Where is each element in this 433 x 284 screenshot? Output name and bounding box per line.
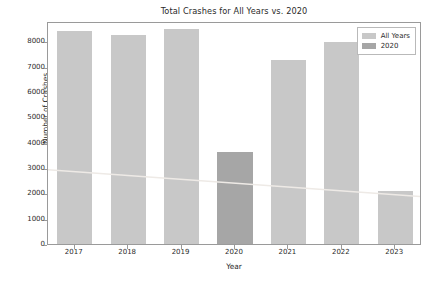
chart-legend: All Years2020	[357, 27, 416, 55]
x-tick-mark	[74, 245, 75, 249]
x-tick-mark	[127, 245, 128, 249]
y-tick-label: 0	[0, 240, 45, 250]
legend-item-0: All Years	[362, 31, 410, 41]
plot-area: All Years2020	[47, 22, 421, 245]
x-tick-label-2022: 2022	[311, 248, 371, 256]
x-tick-label-2019: 2019	[151, 248, 211, 256]
bar-2020	[217, 152, 252, 244]
bar-2023	[378, 191, 413, 244]
y-tick-label: 6000	[0, 88, 45, 98]
y-tick-label: 2000	[0, 189, 45, 199]
legend-label: All Years	[381, 32, 410, 40]
y-tick-label: 4000	[0, 139, 45, 149]
x-tick-label-2023: 2023	[364, 248, 424, 256]
bar-2022	[324, 42, 359, 244]
legend-swatch-icon	[362, 33, 376, 39]
y-tick-label: 1000	[0, 215, 45, 225]
x-tick-label-2021: 2021	[257, 248, 317, 256]
y-tick-label: 8000	[0, 37, 45, 47]
x-tick-label-2017: 2017	[44, 248, 104, 256]
y-tick-label: 7000	[0, 63, 45, 73]
y-tick-label: 3000	[0, 164, 45, 174]
bar-2021	[271, 60, 306, 244]
y-tick-mark	[44, 245, 48, 246]
x-axis-label: Year	[47, 262, 421, 271]
bar-2017	[57, 31, 92, 244]
chart-title: Total Crashes for All Years vs. 2020	[47, 6, 421, 16]
x-tick-label-2018: 2018	[97, 248, 157, 256]
legend-swatch-icon	[362, 43, 376, 49]
x-tick-mark	[394, 245, 395, 249]
legend-label: 2020	[381, 42, 399, 50]
y-tick-label: 5000	[0, 113, 45, 123]
x-tick-label-2020: 2020	[204, 248, 264, 256]
legend-item-1: 2020	[362, 41, 410, 51]
bar-2018	[111, 35, 146, 244]
x-tick-mark	[341, 245, 342, 249]
chart-figure: Total Crashes for All Years vs. 2020 Num…	[0, 0, 433, 284]
x-tick-mark	[181, 245, 182, 249]
bar-2019	[164, 29, 199, 244]
x-tick-mark	[234, 245, 235, 249]
x-tick-mark	[287, 245, 288, 249]
